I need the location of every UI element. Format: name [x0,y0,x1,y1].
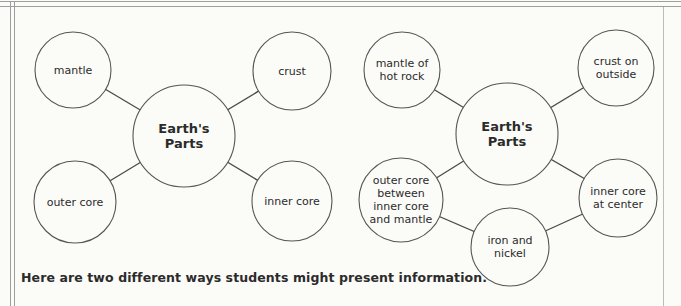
node-label-mantle-of-hot-rock: mantle ofhot rock [376,57,430,83]
concept-map-detailed: Earth'sPartsmantle ofhot rockcrust onout… [359,30,657,286]
node-label-crust-on-outside: crust onoutside [594,55,639,81]
node-label-crust: crust [278,65,306,78]
node-label-outer-core-between: outer corebetweeninner coreand mantle [370,174,433,226]
node-label-iron-and-nickel: iron andnickel [487,234,532,260]
node-label-mantle: mantle [54,64,93,77]
node-label-inner-core-at-center: inner coreat center [590,185,646,211]
concept-maps-canvas: Earth'sPartsmantlecrustouter coreinner c… [0,0,681,306]
node-label-inner-core: inner core [264,195,320,208]
node-label-earths-parts-2: Earth'sParts [481,119,533,149]
node-label-outer-core: outer core [47,196,104,209]
scanned-figure-page: Earth'sPartsmantlecrustouter coreinner c… [0,0,681,306]
node-label-earths-parts-1: Earth'sParts [158,121,210,151]
concept-map-simple: Earth'sPartsmantlecrustouter coreinner c… [34,32,332,243]
caption: Here are two different ways students mig… [21,270,487,285]
